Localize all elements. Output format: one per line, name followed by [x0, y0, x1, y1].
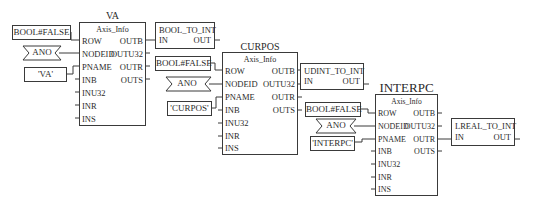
pin-outu32: OUTU32: [263, 79, 295, 89]
pin-outs: OUTS: [121, 75, 143, 85]
pin-pname: PNAME: [378, 135, 406, 145]
converter-in-pin: IN: [304, 76, 313, 86]
converter-bool-to-int[interactable]: BOOL_TO_INT IN OUT: [155, 22, 215, 49]
block-instance-va: VA: [79, 10, 146, 21]
ano-label-curpos[interactable]: ANO: [172, 78, 202, 88]
block-type: Axis_Info: [80, 25, 145, 34]
pin-pname: PNAME: [225, 92, 255, 102]
pin-inr: INR: [378, 173, 392, 183]
pin-inb: INB: [225, 105, 240, 115]
const-row-interpc[interactable]: BOOL#FALSE: [305, 102, 361, 117]
pin-outu32: OUTU32: [111, 49, 143, 59]
pin-pname: PNAME: [82, 62, 112, 72]
pin-inr: INR: [225, 131, 240, 141]
pin-outs: OUTS: [414, 147, 435, 157]
pin-ins: INS: [378, 185, 391, 195]
pin-inb: INB: [378, 147, 392, 157]
converter-out-pin: OUT: [494, 132, 511, 142]
block-type: Axis_Info: [223, 55, 297, 64]
const-pname-interpc[interactable]: 'INTERPC': [310, 136, 355, 151]
pin-row: ROW: [82, 36, 102, 46]
converter-lreal-to-int[interactable]: LREAL_TO_INT IN OUT: [451, 118, 515, 146]
const-row-curpos[interactable]: BOOL#FALSE: [155, 56, 211, 71]
pin-inb: INB: [82, 75, 97, 85]
pin-outb: OUTB: [272, 66, 295, 76]
pin-outs: OUTS: [273, 105, 295, 115]
converter-udint-to-int[interactable]: UDINT_TO_INT IN OUT: [300, 63, 364, 90]
pin-inu32: INU32: [225, 118, 249, 128]
converter-in-pin: IN: [455, 132, 464, 142]
pin-nodeid: NODEID: [82, 49, 115, 59]
pin-outb: OUTB: [413, 109, 435, 119]
pin-outr: OUTR: [120, 62, 143, 72]
const-pname-curpos[interactable]: 'CURPOS': [167, 101, 212, 116]
const-pname-va[interactable]: 'VA': [24, 67, 67, 82]
pin-outu32: OUTU32: [405, 122, 435, 132]
ano-label-interpc[interactable]: ANO: [322, 120, 350, 130]
pin-nodeid: NODEID: [225, 79, 258, 89]
pin-ins: INS: [225, 143, 239, 153]
converter-in-pin: IN: [159, 35, 168, 45]
block-type: Axis_Info: [376, 97, 437, 106]
pin-ins: INS: [82, 114, 96, 124]
pin-row: ROW: [378, 109, 397, 119]
pin-row: ROW: [225, 66, 245, 76]
pin-inu32: INU32: [378, 160, 400, 170]
function-block-interpc[interactable]: Axis_Info ROW NODEID PNAME INB INU32 INR…: [375, 94, 438, 196]
pin-outb: OUTB: [120, 36, 143, 46]
pin-outr: OUTR: [413, 135, 435, 145]
converter-type: LREAL_TO_INT: [455, 121, 516, 131]
function-block-curpos[interactable]: Axis_Info ROW NODEID PNAME INB INU32 INR…: [222, 52, 298, 155]
pin-inu32: INU32: [82, 88, 106, 98]
function-block-va[interactable]: Axis_Info ROW NODEID PNAME INB INU32 INR…: [79, 22, 146, 126]
ano-label-va[interactable]: ANO: [29, 47, 55, 57]
converter-type: UDINT_TO_INT: [304, 66, 364, 76]
block-instance-curpos: CURPOS: [222, 41, 298, 52]
converter-out-pin: OUT: [343, 76, 360, 86]
converter-type: BOOL_TO_INT: [159, 25, 216, 35]
const-row-va[interactable]: BOOL#FALSE: [12, 25, 71, 40]
pin-outr: OUTR: [272, 92, 295, 102]
pin-inr: INR: [82, 101, 97, 111]
converter-out-pin: OUT: [194, 35, 211, 45]
